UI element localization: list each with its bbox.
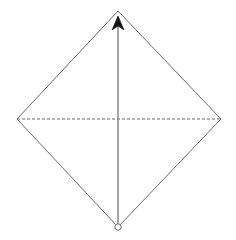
diamond-diagram-svg (0, 0, 236, 240)
origin-circle-marker (115, 224, 121, 230)
figure-root (0, 0, 236, 240)
